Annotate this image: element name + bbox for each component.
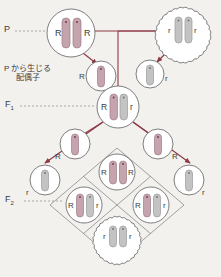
cell-gamete-p-left[interactable]: R bbox=[79, 61, 116, 91]
allele-label: r bbox=[165, 74, 168, 83]
centromere-dot bbox=[79, 196, 81, 198]
centromere-dot bbox=[100, 68, 102, 70]
cell-gamete-f1-a[interactable]: R bbox=[55, 129, 90, 161]
cell-parent-male[interactable]: R R bbox=[47, 9, 95, 57]
label-p-generation: P bbox=[4, 24, 10, 34]
centromere-dot bbox=[146, 196, 148, 198]
cell-gamete-f1-b[interactable]: R bbox=[143, 129, 178, 161]
allele-label: R bbox=[172, 152, 178, 161]
allele-label: r bbox=[168, 26, 171, 35]
allele-label: r bbox=[194, 26, 197, 35]
cell-gamete-f1-c[interactable]: r bbox=[26, 165, 60, 197]
allele-label: r bbox=[96, 201, 99, 210]
centromere-dot bbox=[112, 228, 114, 230]
cell-f2-top[interactable]: R R bbox=[99, 154, 135, 190]
centromere-dot bbox=[149, 67, 151, 69]
allele-label: R bbox=[128, 168, 134, 177]
allele-label: r bbox=[163, 201, 166, 210]
label-f1-subscript: 1 bbox=[11, 105, 14, 111]
centromere-dot bbox=[74, 136, 76, 138]
centromere-dot bbox=[156, 196, 158, 198]
allele-label: r bbox=[26, 188, 29, 197]
label-p-gametes-line1: P から生じる bbox=[4, 64, 51, 73]
centromere-dot bbox=[65, 21, 67, 23]
diagram-canvas: R R r r R r R r R bbox=[0, 0, 221, 277]
centromere-dot bbox=[123, 97, 125, 99]
allele-label: R bbox=[135, 201, 141, 210]
allele-label: r bbox=[103, 232, 106, 241]
label-f1-generation: F1 bbox=[5, 99, 14, 112]
centromere-dot bbox=[89, 196, 91, 198]
centromere-dot bbox=[76, 21, 78, 23]
allele-label: R bbox=[84, 28, 91, 38]
allele-label: R bbox=[55, 28, 62, 38]
centromere-dot bbox=[113, 97, 115, 99]
centromere-dot bbox=[178, 20, 180, 22]
allele-label: r bbox=[130, 102, 133, 112]
allele-label: R bbox=[101, 168, 107, 177]
allele-label: R bbox=[68, 201, 74, 210]
cell-gamete-p-right[interactable]: r bbox=[136, 60, 168, 88]
allele-label: R bbox=[79, 72, 85, 81]
label-f2-subscript: 2 bbox=[11, 200, 14, 206]
label-f2-generation: F2 bbox=[5, 194, 14, 207]
cell-f2-right[interactable]: R r bbox=[133, 187, 169, 223]
genetics-inheritance-diagram: R R r r R r R r R bbox=[0, 0, 221, 277]
cell-f2-bottom[interactable]: r r bbox=[93, 216, 141, 264]
centromere-dot bbox=[188, 20, 190, 22]
cell-outline-scallop bbox=[155, 7, 211, 63]
centromere-dot bbox=[44, 172, 46, 174]
centromere-dot bbox=[122, 163, 124, 165]
cell-parent-female[interactable]: r r bbox=[155, 7, 211, 63]
cell-f1-offspring[interactable]: R r bbox=[97, 86, 139, 128]
allele-label: r bbox=[129, 232, 132, 241]
centromere-dot bbox=[122, 228, 124, 230]
label-p-gametes-line2: 配偶子 bbox=[4, 73, 51, 82]
label-p-gametes: P から生じる 配偶子 bbox=[4, 64, 51, 82]
cell-outline-scallop bbox=[93, 216, 141, 264]
cell-f2-left[interactable]: R r bbox=[66, 187, 102, 223]
centromere-dot bbox=[188, 172, 190, 174]
allele-label: R bbox=[101, 102, 107, 112]
cell-gamete-f1-d[interactable]: r bbox=[174, 165, 205, 197]
centromere-dot bbox=[157, 136, 159, 138]
allele-label: r bbox=[202, 188, 205, 197]
allele-label: R bbox=[55, 152, 61, 161]
centromere-dot bbox=[112, 163, 114, 165]
